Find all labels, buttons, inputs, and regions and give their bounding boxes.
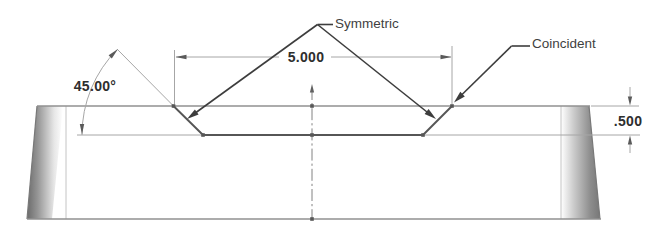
width-dimension: 5.000 <box>175 46 453 104</box>
angle-dimension: 45.00° <box>74 49 202 135</box>
angle-extension-line-slanted <box>118 50 175 107</box>
symmetric-leader-right <box>318 25 428 113</box>
coincident-callout: Coincident <box>454 36 596 103</box>
angle-arc-lower-arrowhead-icon <box>80 124 84 135</box>
symmetric-left-arrowhead-icon <box>187 109 199 119</box>
width-right-arrowhead-icon <box>441 55 452 59</box>
point-marker-icon <box>310 133 314 137</box>
v-groove <box>174 106 453 135</box>
symmetric-label: Symmetric <box>335 16 399 31</box>
width-left-arrowhead-icon <box>176 55 187 59</box>
centerline-arrowhead-icon <box>310 84 314 93</box>
coincident-leader-diagonal <box>459 46 512 98</box>
angle-dimension-text: 45.00° <box>74 78 116 94</box>
point-marker-icon <box>421 133 425 137</box>
point-marker-icon <box>450 104 454 108</box>
point-marker-icon <box>310 104 314 108</box>
symmetric-leader-left <box>196 25 318 113</box>
cad-drawing-svg: 45.00° 5.000 .500 <box>0 0 669 235</box>
point-marker-icon <box>201 133 205 137</box>
coincident-label: Coincident <box>532 36 596 51</box>
figure-canvas: 45.00° 5.000 .500 <box>0 0 669 235</box>
point-marker-icon <box>310 217 314 221</box>
sketch-point-markers <box>172 104 454 221</box>
depth-dimension-text: .500 <box>614 113 642 129</box>
part-outline <box>27 106 601 219</box>
width-dimension-text: 5.000 <box>288 49 325 65</box>
point-marker-icon <box>172 104 176 108</box>
depth-dimension: .500 <box>424 87 642 153</box>
groove-right-slant-edge <box>423 106 452 135</box>
depth-bottom-arrowhead-icon <box>628 136 632 145</box>
depth-top-arrowhead-icon <box>628 97 632 106</box>
